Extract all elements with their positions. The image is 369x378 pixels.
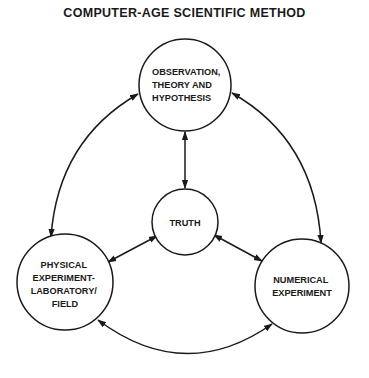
edge-truth-physical xyxy=(108,236,157,262)
node-truth-label: TRUTH xyxy=(169,218,200,228)
edge-observation-physical xyxy=(51,94,138,237)
edge-truth-numerical xyxy=(214,235,262,261)
edge-physical-numerical xyxy=(98,320,272,354)
scientific-method-diagram: OBSERVATION, THEORY AND HYPOTHESIS TRUTH… xyxy=(0,0,369,378)
edge-observation-numerical xyxy=(232,93,321,243)
node-numerical-experiment xyxy=(255,239,349,333)
